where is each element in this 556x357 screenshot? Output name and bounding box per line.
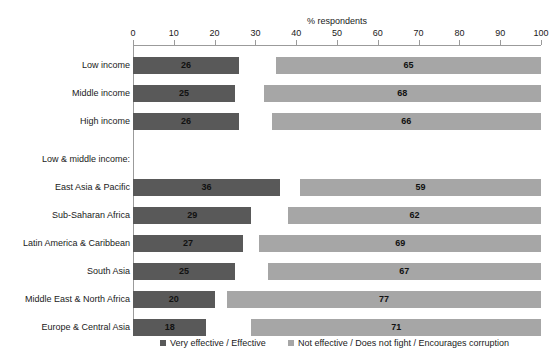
bar-value-very-effective: 36 — [133, 179, 280, 196]
bar-value-very-effective: 18 — [133, 319, 206, 336]
chart-row: Sub-Saharan Africa2962 — [0, 207, 556, 224]
category-label-south-asia: South Asia — [6, 263, 130, 280]
x-tick-mark-60 — [378, 40, 379, 45]
bar-value-very-effective: 20 — [133, 291, 215, 308]
chart-row: Middle East & North Africa2077 — [0, 291, 556, 308]
x-tick-mark-80 — [459, 40, 460, 45]
category-label-high-income: High income — [6, 113, 130, 130]
bar-value-not-effective: 59 — [300, 179, 541, 196]
bar-value-very-effective: 26 — [133, 57, 239, 74]
bar-value-not-effective: 67 — [268, 263, 541, 280]
bar-value-not-effective: 66 — [272, 113, 541, 130]
chart-row: Europe & Central Asia1871 — [0, 319, 556, 336]
chart-row: Low income2665 — [0, 57, 556, 74]
chart-legend: Very effective / EffectiveNot effective … — [0, 336, 556, 350]
bar-value-not-effective: 71 — [251, 319, 541, 336]
category-label-latin-america-caribbean: Latin America & Caribbean — [6, 235, 130, 252]
chart-row: Latin America & Caribbean2769 — [0, 235, 556, 252]
legend-label-1: Very effective / Effective — [170, 336, 266, 350]
category-label-low-income: Low income — [6, 57, 130, 74]
x-tick-mark-70 — [419, 40, 420, 45]
bar-value-not-effective: 65 — [276, 57, 541, 74]
bar-value-not-effective: 62 — [288, 207, 541, 224]
x-tick-mark-0 — [133, 40, 134, 45]
bar-value-very-effective: 25 — [133, 263, 235, 280]
x-tick-mark-100 — [541, 40, 542, 45]
plot-area: Low income2665Middle income2568High inco… — [0, 0, 556, 357]
bar-value-very-effective: 25 — [133, 85, 235, 102]
bar-value-very-effective: 29 — [133, 207, 251, 224]
x-tick-mark-50 — [337, 40, 338, 45]
legend-swatch-icon-1 — [160, 340, 166, 346]
legend-item-1[interactable]: Very effective / Effective — [160, 336, 266, 350]
legend-swatch-icon-2 — [288, 340, 294, 346]
category-label-east-asia-pacific: East Asia & Pacific — [6, 179, 130, 196]
x-tick-mark-10 — [174, 40, 175, 45]
chart-row: High income2666 — [0, 113, 556, 130]
x-tick-mark-40 — [296, 40, 297, 45]
bar-value-not-effective: 77 — [227, 291, 541, 308]
bar-value-not-effective: 68 — [264, 85, 541, 102]
x-tick-mark-30 — [255, 40, 256, 45]
bar-value-very-effective: 26 — [133, 113, 239, 130]
category-label-sub-saharan-africa: Sub-Saharan Africa — [6, 207, 130, 224]
legend-item-2[interactable]: Not effective / Does not fight / Encoura… — [288, 336, 509, 350]
chart-row: Middle income2568 — [0, 85, 556, 102]
x-tick-mark-90 — [500, 40, 501, 45]
bar-value-very-effective: 27 — [133, 235, 243, 252]
bar-chart: % respondents 0102030405060708090100 Low… — [0, 0, 556, 357]
bar-value-not-effective: 69 — [259, 235, 541, 252]
legend-label-2: Not effective / Does not fight / Encoura… — [298, 336, 509, 350]
group-heading-low-middle-income: Low & middle income: — [6, 151, 130, 168]
chart-row: East Asia & Pacific3659 — [0, 179, 556, 196]
x-tick-mark-20 — [215, 40, 216, 45]
category-label-middle-east-north-africa: Middle East & North Africa — [6, 291, 130, 308]
category-label-middle-income: Middle income — [6, 85, 130, 102]
category-label-europe-central-asia: Europe & Central Asia — [6, 319, 130, 336]
chart-row: South Asia2567 — [0, 263, 556, 280]
